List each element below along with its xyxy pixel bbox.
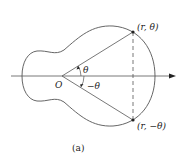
polar-symmetry-diagram: O θ −θ (r, θ) (r, −θ) (a) [0,0,183,160]
point-lower [131,118,134,121]
angle-arc-lower-arrow-icon [80,84,84,87]
angle-lower-label: −θ [87,81,101,91]
angle-upper-label: θ [83,65,89,75]
ray-upper [62,32,133,76]
point-upper [131,30,134,33]
origin-label: O [55,80,63,90]
point-lower-label: (r, −θ) [137,121,167,131]
axis-arrow-icon [169,74,176,79]
figure-caption: (a) [72,143,84,153]
point-upper-label: (r, θ) [137,22,159,32]
